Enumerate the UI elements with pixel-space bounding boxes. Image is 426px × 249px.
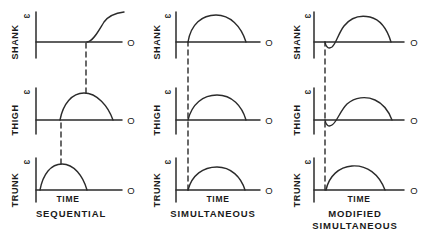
figure-root: SHANK ω THIGH ω TRUNK ω O O O TIME SEQUE… bbox=[0, 0, 426, 249]
ylabel-trunk-omega: ω bbox=[165, 157, 172, 166]
xlabel-time: TIME bbox=[347, 194, 370, 204]
row-shank-axes bbox=[36, 12, 122, 58]
curve-thigh-simultaneous bbox=[188, 95, 246, 120]
panel-caption-sequential: SEQUENTIAL bbox=[0, 208, 142, 220]
ylabel-shank-omega: ω bbox=[305, 11, 312, 20]
ylabel-shank: SHANK bbox=[10, 24, 20, 59]
panel-caption-modified-simultaneous: MODIFIED SIMULTANEOUS bbox=[284, 208, 426, 231]
caption-line-1: SEQUENTIAL bbox=[0, 208, 142, 220]
ylabel-shank-omega: ω bbox=[24, 11, 31, 20]
curve-shank-modified bbox=[325, 16, 391, 48]
caption-line-1: MODIFIED bbox=[284, 208, 426, 220]
caption-line-1: SIMULTANEOUS bbox=[142, 208, 284, 220]
curve-trunk-simultaneous bbox=[188, 167, 245, 190]
xlabel-time: TIME bbox=[206, 194, 229, 204]
panel-sequential-plot: SHANK ω THIGH ω TRUNK ω O O O TIME bbox=[0, 0, 142, 210]
ylabel-thigh-omega: ω bbox=[165, 87, 172, 96]
ylabel-thigh-omega: ω bbox=[24, 87, 31, 96]
origin-marker-shank: O bbox=[265, 37, 272, 48]
curve-thigh-sequential bbox=[60, 93, 113, 120]
ylabel-trunk: TRUNK bbox=[152, 173, 162, 208]
ylabel-thigh: THIGH bbox=[292, 105, 302, 136]
origin-marker-thigh: O bbox=[127, 115, 134, 126]
panel-sequential: SHANK ω THIGH ω TRUNK ω O O O TIME SEQUE… bbox=[0, 0, 142, 249]
origin-marker-trunk: O bbox=[410, 185, 417, 196]
ylabel-shank-omega: ω bbox=[165, 11, 172, 20]
panel-modified-simultaneous-plot: SHANK ω THIGH ω TRUNK ω O O O TIME bbox=[284, 0, 426, 210]
ylabel-thigh: THIGH bbox=[10, 105, 20, 136]
ylabel-trunk-omega: ω bbox=[24, 157, 31, 166]
origin-marker-shank: O bbox=[127, 37, 134, 48]
origin-marker-trunk: O bbox=[127, 185, 134, 196]
ylabel-thigh: THIGH bbox=[152, 105, 162, 136]
curve-shank-sequential bbox=[87, 12, 124, 42]
ylabel-trunk: TRUNK bbox=[10, 173, 20, 208]
curve-trunk-modified bbox=[326, 166, 385, 190]
origin-marker-shank: O bbox=[410, 37, 417, 48]
ylabel-trunk-omega: ω bbox=[305, 157, 312, 166]
curve-shank-simultaneous bbox=[188, 15, 246, 42]
origin-marker-trunk: O bbox=[265, 185, 272, 196]
row-thigh-axes bbox=[314, 88, 404, 134]
caption-line-2: SIMULTANEOUS bbox=[284, 220, 426, 232]
origin-marker-thigh: O bbox=[410, 115, 417, 126]
row-shank-axes bbox=[314, 12, 404, 58]
origin-marker-thigh: O bbox=[265, 115, 272, 126]
panel-caption-simultaneous: SIMULTANEOUS bbox=[142, 208, 284, 220]
curve-thigh-modified bbox=[325, 98, 392, 126]
xlabel-time: TIME bbox=[56, 194, 79, 204]
curve-trunk-sequential bbox=[40, 164, 87, 190]
ylabel-shank: SHANK bbox=[292, 24, 302, 59]
panel-simultaneous-plot: SHANK ω THIGH ω TRUNK ω O O O TIME bbox=[142, 0, 284, 210]
panel-modified-simultaneous: SHANK ω THIGH ω TRUNK ω O O O TIME MODIF… bbox=[284, 0, 426, 249]
ylabel-thigh-omega: ω bbox=[305, 87, 312, 96]
ylabel-trunk: TRUNK bbox=[292, 173, 302, 208]
panel-simultaneous: SHANK ω THIGH ω TRUNK ω O O O TIME SIMUL… bbox=[142, 0, 284, 249]
ylabel-shank: SHANK bbox=[152, 24, 162, 59]
